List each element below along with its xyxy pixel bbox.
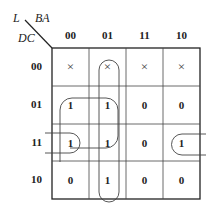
kmap-cell: 0 <box>126 124 163 162</box>
kmap-cell: 0 <box>163 161 200 199</box>
kmap-cell: 0 <box>126 86 163 124</box>
row-variables-label: DC <box>18 31 35 46</box>
row-header: 11 <box>18 136 42 148</box>
row-header: 00 <box>18 60 42 72</box>
kmap-cell: 1 <box>163 124 200 162</box>
kmap-cell: 1 <box>52 86 89 124</box>
output-label: L <box>13 11 20 26</box>
column-header: 01 <box>89 29 126 41</box>
kmap-cell: 1 <box>89 161 126 199</box>
kmap-cell: 1 <box>52 124 89 162</box>
kmap-cell: × <box>52 48 89 86</box>
kmap-cell: × <box>126 48 163 86</box>
kmap-cell: 1 <box>89 124 126 162</box>
column-header: 10 <box>163 29 200 41</box>
kmap-cell: 0 <box>126 161 163 199</box>
kmap-cell: 1 <box>89 86 126 124</box>
kmap-cell: × <box>89 48 126 86</box>
column-variables-label: BA <box>35 11 50 26</box>
kmap-cell: × <box>163 48 200 86</box>
row-header: 01 <box>18 98 42 110</box>
column-header: 11 <box>126 29 163 41</box>
kmap-cell: 0 <box>52 161 89 199</box>
row-header: 10 <box>18 173 42 185</box>
kmap-cell: 0 <box>163 86 200 124</box>
column-header: 00 <box>52 29 89 41</box>
